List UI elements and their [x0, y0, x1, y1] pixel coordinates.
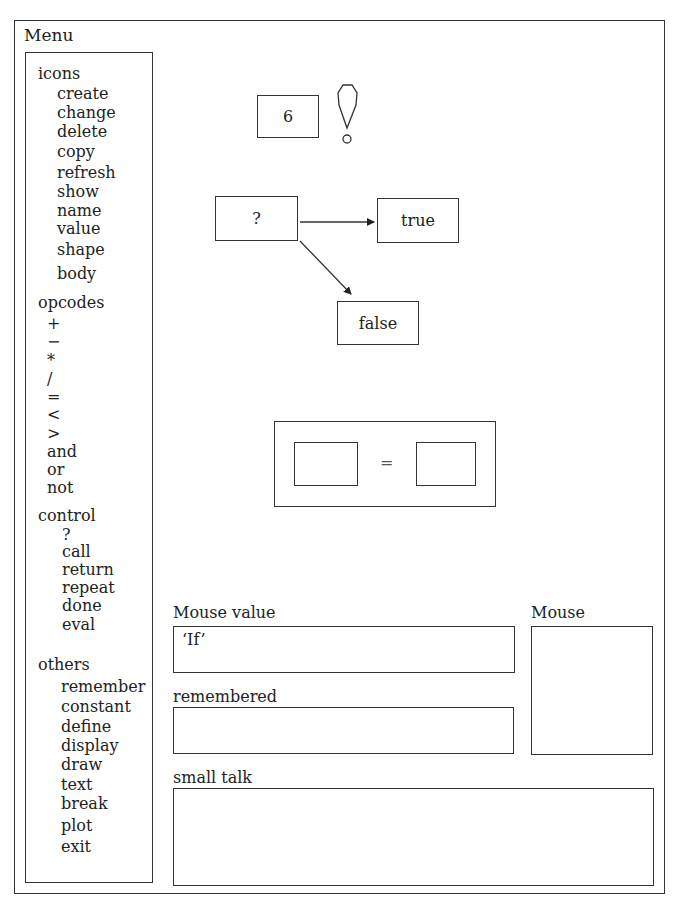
conditional-test-text: ? [252, 209, 261, 228]
exclamation-icon[interactable] [334, 83, 364, 147]
menu-item-exit[interactable]: exit [61, 839, 91, 855]
menu-item-repeat[interactable]: repeat [62, 580, 115, 596]
menu-group-opcodes: opcodes [38, 295, 104, 311]
menu-group-others: others [38, 657, 90, 673]
menu-item-return[interactable]: return [62, 562, 114, 578]
comparison-frame[interactable]: = [274, 421, 496, 507]
menu-item-call[interactable]: call [62, 544, 91, 560]
window-title: Menu [24, 25, 73, 45]
menu-item-plot[interactable]: plot [61, 818, 92, 834]
mouse-panel[interactable] [531, 626, 653, 755]
menu-item-define[interactable]: define [61, 719, 111, 735]
false-arrow-icon [300, 241, 351, 294]
menu-item-or[interactable]: or [47, 462, 64, 478]
menu-item-divide[interactable]: / [47, 371, 52, 387]
value-icon-box[interactable]: 6 [257, 95, 319, 138]
menu-item-show[interactable]: show [57, 184, 99, 200]
comparison-operator: = [380, 453, 393, 472]
menu-item-break[interactable]: break [61, 796, 108, 812]
left-operand-box[interactable] [294, 442, 358, 486]
menu-group-control: control [38, 508, 96, 524]
menu-item-plus[interactable]: + [47, 316, 60, 332]
menu-item-text[interactable]: text [61, 777, 92, 793]
menu-item-remember[interactable]: remember [61, 679, 145, 695]
menu-item-refresh[interactable]: refresh [57, 165, 116, 181]
mouse-value-text: ‘If’ [182, 630, 206, 649]
right-operand-box[interactable] [416, 442, 476, 486]
menu-item-constant[interactable]: constant [61, 699, 131, 715]
false-branch-box[interactable]: false [337, 301, 419, 345]
menu-item-minus[interactable]: − [47, 334, 60, 350]
menu-item-display[interactable]: display [61, 738, 119, 754]
menu-item-conditional[interactable]: ? [62, 527, 71, 543]
small-talk-label: small talk [173, 768, 252, 787]
remembered-field[interactable] [173, 707, 514, 754]
menu-group-icons: icons [38, 66, 80, 82]
mouse-value-field[interactable]: ‘If’ [173, 626, 515, 673]
menu-item-done[interactable]: done [62, 598, 102, 614]
menu-item-greater-than[interactable]: > [47, 426, 60, 442]
menu-item-body[interactable]: body [57, 266, 96, 282]
true-branch-text: true [401, 211, 435, 230]
branch-arrows [290, 210, 390, 300]
false-branch-text: false [359, 314, 397, 333]
menu-item-multiply[interactable]: * [47, 353, 55, 369]
menu-item-draw[interactable]: draw [61, 757, 102, 773]
menu-item-and[interactable]: and [47, 444, 77, 460]
menu-item-not[interactable]: not [47, 480, 73, 496]
small-talk-field[interactable] [173, 788, 654, 886]
menu-item-value[interactable]: value [57, 221, 100, 237]
remembered-label: remembered [173, 687, 277, 706]
conditional-test-box[interactable]: ? [215, 196, 298, 241]
mouse-value-label: Mouse value [173, 603, 276, 622]
value-icon-text: 6 [283, 107, 293, 126]
menu-item-name[interactable]: name [57, 203, 101, 219]
mouse-label: Mouse [531, 603, 585, 622]
menu-item-create[interactable]: create [57, 86, 109, 102]
menu-item-delete[interactable]: delete [57, 124, 107, 140]
menu-item-eval[interactable]: eval [62, 617, 95, 633]
menu-item-change[interactable]: change [57, 105, 116, 121]
menu-sidebar: icons create change delete copy refresh … [25, 52, 153, 883]
menu-item-equals[interactable]: = [47, 389, 60, 405]
menu-item-copy[interactable]: copy [57, 144, 95, 160]
menu-item-less-than[interactable]: < [47, 407, 60, 423]
menu-item-shape[interactable]: shape [57, 242, 105, 258]
